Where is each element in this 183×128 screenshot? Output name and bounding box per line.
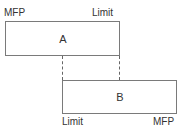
box-b-left-label: Limit bbox=[62, 116, 83, 127]
box-a: A bbox=[5, 21, 120, 56]
dashed-connector-right bbox=[119, 56, 120, 80]
box-a-left-label: MFP bbox=[4, 7, 25, 18]
box-b: B bbox=[62, 80, 177, 114]
dashed-connector-left bbox=[62, 56, 63, 80]
box-a-label: A bbox=[59, 33, 66, 45]
box-b-right-label: MFP bbox=[153, 116, 174, 127]
box-a-right-label: Limit bbox=[92, 7, 113, 18]
box-b-label: B bbox=[116, 91, 123, 103]
